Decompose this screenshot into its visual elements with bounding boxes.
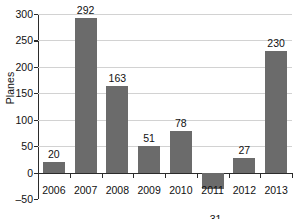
bar-value-label: –31 bbox=[204, 213, 222, 219]
bar-value-label: 20 bbox=[48, 148, 60, 160]
bar bbox=[75, 18, 97, 172]
y-axis-tick-label: 100 bbox=[15, 114, 33, 126]
y-axis-tick-label: 0 bbox=[27, 167, 33, 179]
y-axis-tick bbox=[34, 14, 38, 15]
y-axis-tick bbox=[34, 40, 38, 41]
x-axis-category-label: 2013 bbox=[264, 184, 287, 196]
bar-value-label: 292 bbox=[77, 4, 95, 16]
x-axis-tick bbox=[38, 173, 39, 178]
bar-value-label: 230 bbox=[267, 37, 285, 49]
bar bbox=[138, 146, 160, 173]
bar-value-label: 78 bbox=[175, 117, 187, 129]
y-axis-tick-label: 250 bbox=[15, 34, 33, 46]
x-axis-tick bbox=[292, 173, 293, 178]
y-axis-tick bbox=[34, 67, 38, 68]
y-axis-tick bbox=[34, 146, 38, 147]
y-axis-tick bbox=[34, 120, 38, 121]
x-axis-category-label: 2012 bbox=[233, 184, 256, 196]
plot-area: –500501001502002503002020062922007163200… bbox=[38, 14, 292, 199]
y-axis-tick bbox=[34, 199, 38, 200]
bar-chart: Planes –50050100150200250300202006292200… bbox=[0, 0, 303, 219]
x-axis-category-label: 2006 bbox=[42, 184, 65, 196]
bar bbox=[265, 51, 287, 173]
bar-value-label: 27 bbox=[239, 144, 251, 156]
x-axis-category-label: 2011 bbox=[201, 184, 224, 196]
x-axis-category-label: 2008 bbox=[106, 184, 129, 196]
x-axis-tick bbox=[229, 173, 230, 178]
x-axis-tick bbox=[197, 173, 198, 178]
bar-value-label: 163 bbox=[109, 72, 127, 84]
bar-value-label: 51 bbox=[143, 132, 155, 144]
y-axis-line bbox=[38, 14, 39, 199]
bar bbox=[170, 131, 192, 172]
x-axis-category-label: 2010 bbox=[169, 184, 192, 196]
y-axis-title: Planes bbox=[4, 58, 16, 118]
y-axis-tick-label: 200 bbox=[15, 61, 33, 73]
bar bbox=[43, 162, 65, 173]
y-axis-tick-label: –50 bbox=[15, 193, 33, 205]
x-axis-tick bbox=[165, 173, 166, 178]
bar bbox=[233, 158, 255, 172]
y-axis-tick-label: 300 bbox=[15, 8, 33, 20]
x-axis-tick bbox=[260, 173, 261, 178]
bar bbox=[106, 86, 128, 172]
x-axis-tick bbox=[70, 173, 71, 178]
x-axis-category-label: 2007 bbox=[74, 184, 97, 196]
y-axis-tick bbox=[34, 93, 38, 94]
x-axis-tick bbox=[133, 173, 134, 178]
x-axis-tick bbox=[102, 173, 103, 178]
y-axis-tick-label: 150 bbox=[15, 87, 33, 99]
y-axis-tick-label: 50 bbox=[21, 140, 33, 152]
x-axis-category-label: 2009 bbox=[137, 184, 160, 196]
